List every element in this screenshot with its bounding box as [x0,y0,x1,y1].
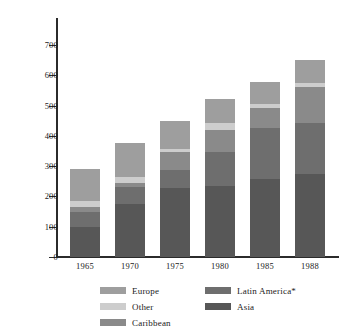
legend-item[interactable]: Europe [100,283,171,298]
legend-item[interactable]: Other [100,299,171,314]
bar-segment [115,183,145,187]
bar-segment [295,123,325,174]
bar-segment [115,204,145,257]
bar-segment [205,99,235,122]
stacked-bar-chart: 0100200300400500600700 19651970197519801… [0,0,351,334]
x-axis-tick-label: 1970 [108,261,152,271]
bar-segment [295,83,325,87]
bar-segment [205,130,235,152]
bar-segment [115,143,145,176]
bar-segment [160,152,190,170]
legend-swatch-icon [205,303,231,310]
bar-segment [295,87,325,122]
bar-segment [160,188,190,257]
bar-segment [205,186,235,257]
bar-stack [115,0,145,270]
bar-segment [115,187,145,204]
bar-stack [295,0,325,270]
legend-item[interactable]: Latin America* [205,283,296,298]
x-axis-tick-label: 1975 [153,261,197,271]
bar-segment [205,152,235,186]
legend-swatch-icon [100,303,126,310]
x-axis-tick-label: 1965 [63,261,107,271]
plot-area: 0100200300400500600700 19651970197519801… [0,0,351,270]
legend-label: Caribbean [132,318,171,328]
legend-item[interactable]: Asia [205,299,296,314]
bar-segment [70,201,100,207]
bar-segment [70,227,100,257]
bar-stack [160,0,190,270]
legend-column-left: EuropeOtherCaribbean [100,283,171,331]
bar-segment [295,174,325,257]
bar-segment [295,60,325,83]
bar-segment [160,149,190,151]
x-axis-tick-label: 1980 [198,261,242,271]
legend-label: Asia [237,302,254,312]
legend-swatch-icon [205,287,231,294]
legend-label: Other [132,302,154,312]
legend-item[interactable]: Caribbean [100,315,171,330]
bar-segment [115,177,145,183]
bar-stack [70,0,100,270]
bar-stack [205,0,235,270]
bar-segment [70,207,100,212]
legend-label: Europe [132,286,159,296]
x-axis-tick-label: 1985 [243,261,287,271]
legend-column-right: Latin America*Asia [205,283,296,315]
x-axis-tick-label: 1988 [288,261,332,271]
legend-label: Latin America* [237,286,296,296]
bar-segment [160,121,190,149]
bars-layer [0,0,351,270]
bar-segment [70,169,100,201]
bar-segment [250,82,280,104]
legend-swatch-icon [100,319,126,326]
bar-segment [205,123,235,130]
legend-swatch-icon [100,287,126,294]
bar-segment [70,212,100,227]
bar-segment [160,170,190,188]
bar-segment [250,104,280,108]
chart-legend: EuropeOtherCaribbean Latin America*Asia [100,283,340,331]
bar-stack [250,0,280,270]
bar-segment [250,128,280,179]
bar-segment [250,108,280,128]
bar-segment [250,179,280,257]
